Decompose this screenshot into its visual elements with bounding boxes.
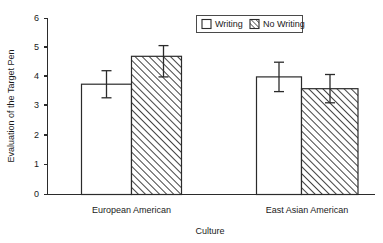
legend-label-writing: Writing: [215, 19, 243, 29]
legend: Writing No Writing: [197, 16, 305, 33]
x-category-label-0: European American: [92, 205, 171, 215]
chart-canvas: Evaluation of the Target Pen 6 5 4 3 2 1: [0, 0, 383, 243]
hatched-square-icon: [250, 20, 259, 29]
x-axis-title: Culture: [195, 226, 224, 236]
y-tick-5: 5: [34, 42, 48, 52]
bar-east-asian-american-no-writing[interactable]: [302, 89, 359, 195]
y-tick-label-3: 3: [34, 100, 39, 110]
y-tick-label-5: 5: [34, 42, 39, 52]
legend-entry-writing[interactable]: Writing: [202, 19, 243, 29]
y-tick-3: 3: [34, 100, 48, 110]
y-tick-label-1: 1: [34, 159, 39, 169]
y-tick-0: 0: [34, 189, 48, 199]
bar-chart-figure: Evaluation of the Target Pen 6 5 4 3 2 1: [0, 0, 383, 243]
y-axis-title: Evaluation of the Target Pen: [6, 50, 16, 163]
x-category-label-1: East Asian American: [266, 205, 349, 215]
y-tick-label-2: 2: [34, 130, 39, 140]
legend-label-no-writing: No Writing: [263, 19, 305, 29]
y-tick-6: 6: [34, 13, 48, 23]
y-tick-label-4: 4: [34, 71, 39, 81]
legend-entry-no-writing[interactable]: No Writing: [250, 19, 305, 29]
bar-european-american-writing[interactable]: [82, 84, 132, 194]
y-tick-4: 4: [34, 71, 48, 81]
y-tick-1: 1: [34, 159, 48, 169]
open-square-icon: [202, 20, 211, 29]
y-tick-2: 2: [34, 130, 48, 140]
bar-east-asian-american-writing[interactable]: [257, 77, 302, 195]
y-tick-label-6: 6: [34, 13, 39, 23]
y-tick-label-0: 0: [34, 189, 39, 199]
bar-european-american-no-writing[interactable]: [132, 56, 182, 194]
